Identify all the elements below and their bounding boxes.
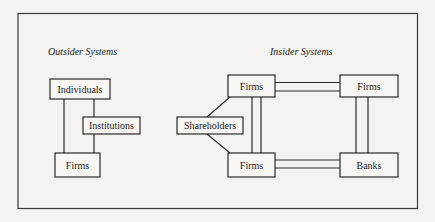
connector-shareholders-firms-bottom [207, 134, 230, 153]
diagram-canvas: Outsider Systems Individuals Institution… [0, 0, 435, 222]
node-insider-firms-right-label: Firms [357, 81, 380, 92]
node-outsider-firms-label: Firms [66, 160, 89, 171]
node-insider-firms-top: Firms [228, 75, 275, 97]
node-individuals: Individuals [50, 79, 110, 99]
outsider-systems-title: Outsider Systems [48, 46, 117, 57]
node-outsider-firms: Firms [55, 153, 100, 177]
connector-shareholders-firms-top [207, 97, 230, 117]
node-insider-firms-bottom: Firms [228, 153, 275, 177]
insider-systems-title: Insider Systems [269, 46, 333, 57]
outer-frame [18, 14, 418, 209]
node-insider-firms-bottom-label: Firms [240, 160, 263, 171]
node-institutions-label: Institutions [89, 120, 134, 131]
node-shareholders: Shareholders [177, 117, 243, 134]
node-insider-firms-top-label: Firms [240, 81, 263, 92]
node-institutions: Institutions [83, 117, 140, 134]
node-banks: Banks [340, 153, 398, 177]
node-individuals-label: Individuals [58, 84, 103, 95]
node-banks-label: Banks [357, 160, 382, 171]
node-insider-firms-right: Firms [340, 75, 398, 97]
node-shareholders-label: Shareholders [184, 120, 236, 131]
